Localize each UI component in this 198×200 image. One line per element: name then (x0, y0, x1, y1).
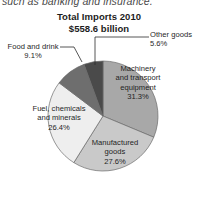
slice-label-fuel-name-1: Fuel, chemicals (32, 104, 85, 113)
slice-label-manufactured-name-2: goods (105, 147, 126, 156)
slice-label-machinery-name-3: equipment (120, 83, 156, 92)
slice-label-machinery-name-1: Machinery (120, 64, 155, 73)
slice-label-other-goods-name: Other goods (150, 30, 192, 39)
slice-label-machinery: Machinery and transport equipment 31.3% (112, 64, 164, 101)
slice-label-manufactured-goods: Manufactured goods 27.6% (86, 138, 144, 166)
slice-label-food-and-drink-name: Food and drink (8, 42, 59, 51)
slice-label-fuel-name-2: and minerals (37, 113, 81, 122)
slice-label-other-goods-pct: 5.6% (150, 39, 198, 48)
slice-label-food-and-drink-pct: 9.1% (0, 51, 66, 60)
slice-label-machinery-pct: 31.3% (112, 92, 164, 101)
slice-label-machinery-name-2: and transport (115, 73, 160, 82)
slice-label-manufactured-name-1: Manufactured (92, 138, 139, 147)
pie-chart-figure: such as banking and insurance. Total Imp… (0, 0, 198, 200)
slice-label-fuel-pct: 26.4% (26, 123, 92, 132)
slice-label-other-goods: Other goods 5.6% (150, 30, 198, 49)
slice-label-manufactured-pct: 27.6% (86, 157, 144, 166)
slice-label-fuel-chemicals-minerals: Fuel, chemicals and minerals 26.4% (26, 104, 92, 132)
slice-label-food-and-drink: Food and drink 9.1% (0, 42, 66, 61)
